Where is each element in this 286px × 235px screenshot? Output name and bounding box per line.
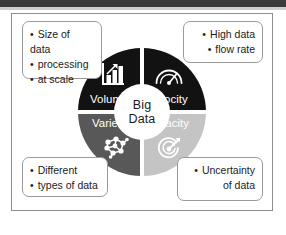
callout-veracity-list: Uncertainty of data xyxy=(185,163,255,193)
list-item: data xyxy=(30,42,94,57)
callout-variety-list: Different types of data xyxy=(30,163,100,193)
center-hub: Big Data xyxy=(114,84,170,140)
list-item: Uncertainty xyxy=(185,163,255,178)
list-item: High data xyxy=(191,27,255,42)
callout-volume: Size of data processing at scale xyxy=(22,21,102,79)
big-data-4vs-diagram: Volume Velocity Variety Veracity Big Dat… xyxy=(0,0,286,235)
callout-veracity: Uncertainty of data xyxy=(177,157,263,201)
bar-chart-arrow-icon xyxy=(100,61,126,91)
list-item: flow rate xyxy=(191,42,255,57)
list-item: of data xyxy=(185,178,255,193)
list-item: processing xyxy=(30,57,94,72)
top-scan-band-shadow xyxy=(0,7,286,10)
list-item: Size of xyxy=(30,27,94,42)
speedometer-gauge-icon xyxy=(154,64,184,90)
center-label-line1: Big xyxy=(133,98,151,112)
callout-velocity: High data flow rate xyxy=(183,21,263,63)
top-scan-band xyxy=(0,0,286,7)
callout-variety: Different types of data xyxy=(22,157,108,197)
list-item: Different xyxy=(30,163,100,178)
list-item: at scale xyxy=(30,72,94,87)
list-item: types of data xyxy=(30,178,100,193)
callout-volume-list: Size of data processing at scale xyxy=(30,27,94,87)
center-label-line2: Data xyxy=(129,112,156,126)
callout-velocity-list: High data flow rate xyxy=(191,27,255,57)
